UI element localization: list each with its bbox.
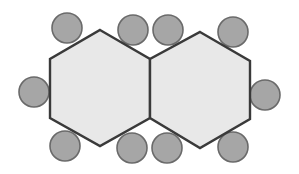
substituent-circle xyxy=(152,133,182,163)
hexagon-right xyxy=(150,32,250,148)
substituent-circle xyxy=(153,15,183,45)
substituent-circle xyxy=(218,17,248,47)
substituent-circle xyxy=(19,77,49,107)
hexagon-rings xyxy=(50,30,250,148)
substituent-circle xyxy=(118,15,148,45)
substituent-circle xyxy=(50,131,80,161)
substituent-circle xyxy=(117,133,147,163)
hexagon-left xyxy=(50,30,150,146)
substituent-circle xyxy=(250,80,280,110)
fused-hexagon-diagram xyxy=(0,0,299,174)
substituent-circle xyxy=(52,13,82,43)
substituent-circle xyxy=(218,132,248,162)
